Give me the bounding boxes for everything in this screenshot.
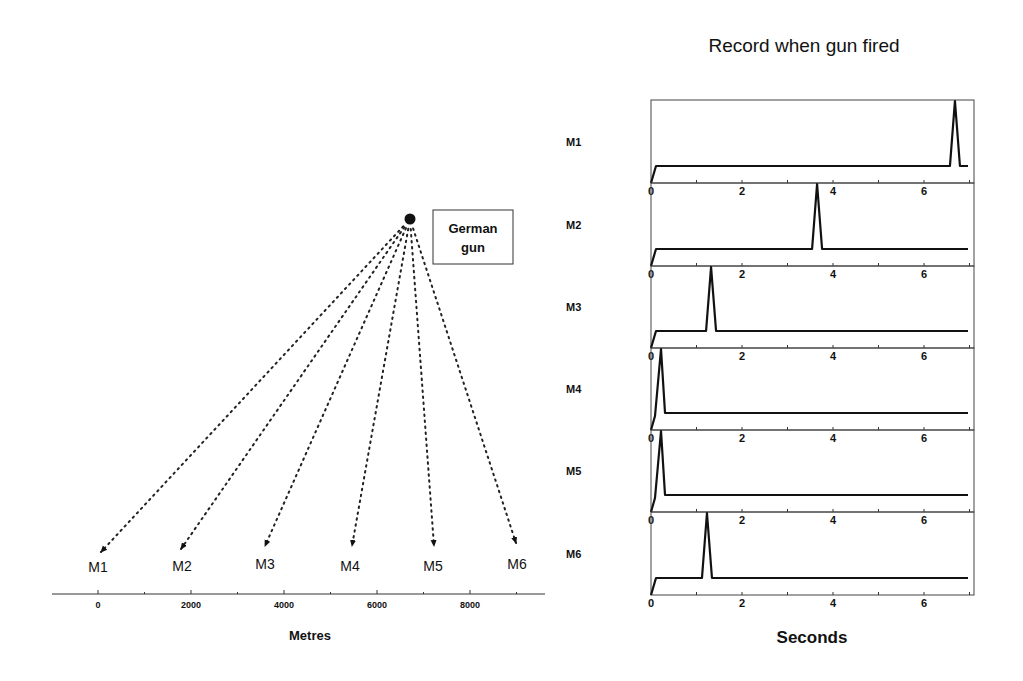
metres-tick-label: 2000 (181, 600, 201, 610)
record-panel-m1: M10246 (566, 100, 974, 197)
metres-tick-label: 6000 (367, 600, 387, 610)
figure: Record when gun fired German gun M1M2M3M… (0, 0, 1023, 681)
seconds-tick-label: 4 (830, 185, 837, 197)
seconds-tick-label: 4 (830, 432, 837, 444)
seconds-tick-label: 0 (648, 597, 654, 609)
seconds-tick-label: 6 (921, 350, 927, 362)
station-label-m2: M2 (172, 558, 192, 574)
station-label-m5: M5 (423, 558, 443, 574)
seconds-tick-label: 2 (739, 432, 745, 444)
gun-label-box: German gun (433, 210, 513, 264)
record-panel-m6: M60246 (566, 512, 974, 609)
seconds-tick-label: 4 (830, 514, 837, 526)
record-panel-m2: M20246 (566, 183, 974, 280)
record-row-label: M3 (566, 301, 581, 313)
seconds-tick-label: 4 (830, 268, 837, 280)
station-label-m6: M6 (507, 556, 527, 572)
seconds-tick-label: 4 (830, 350, 837, 362)
gun-position-diagram: German gun M1M2M3M4M5M6 0200040006000800… (52, 210, 545, 643)
record-row-label: M6 (566, 548, 581, 560)
seconds-tick-label: 2 (739, 268, 745, 280)
seconds-tick-label: 6 (921, 268, 927, 280)
sound-paths (101, 226, 516, 552)
record-trace-m1 (651, 101, 968, 183)
sound-path-arrow-m4 (352, 229, 408, 546)
seconds-tick-label: 6 (921, 432, 927, 444)
sound-path-arrow-m6 (413, 229, 516, 543)
metres-tick-label: 0 (95, 600, 100, 610)
sound-path-arrow-m3 (265, 228, 406, 546)
metres-tick-label: 4000 (274, 600, 294, 610)
gun-label-line1: German (448, 221, 497, 236)
sound-path-arrow-m1 (101, 226, 403, 552)
metres-axis-title: Metres (289, 628, 331, 643)
gun-label-line2: gun (461, 240, 485, 255)
metres-axis: 02000400060008000 Metres (52, 590, 545, 643)
seconds-tick-label: 2 (739, 514, 745, 526)
seconds-axis-title: Seconds (777, 628, 848, 647)
seconds-tick-label: 6 (921, 597, 927, 609)
station-label-m3: M3 (255, 556, 275, 572)
station-label-m1: M1 (88, 559, 108, 575)
microphone-records: M10246M20246M30246M40246M50246M60246 (566, 100, 974, 609)
station-labels: M1M2M3M4M5M6 (88, 556, 527, 575)
gun-marker-icon (405, 214, 416, 225)
record-row-label: M2 (566, 219, 581, 231)
metres-tick-label: 8000 (460, 600, 480, 610)
seconds-tick-label: 6 (921, 514, 927, 526)
seconds-tick-label: 4 (830, 597, 837, 609)
seconds-tick-label: 2 (739, 597, 745, 609)
seconds-tick-label: 6 (921, 185, 927, 197)
record-row-label: M5 (566, 465, 581, 477)
seconds-tick-label: 2 (739, 350, 745, 362)
record-row-label: M4 (566, 383, 582, 395)
seconds-tick-label: 2 (739, 185, 745, 197)
station-label-m4: M4 (340, 558, 360, 574)
figure-title: Record when gun fired (708, 35, 899, 56)
sound-path-arrow-m2 (181, 227, 404, 549)
record-row-label: M1 (566, 136, 581, 148)
sound-path-arrow-m5 (411, 229, 434, 546)
